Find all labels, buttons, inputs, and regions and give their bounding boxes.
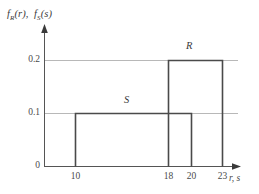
x-axis-title-second: s [236, 173, 240, 183]
probability-density-chart: fR(r), fS(s) 0.2 0.1 0 10 18 20 23 r, s … [0, 0, 259, 194]
x-tick-label-10: 10 [63, 171, 88, 181]
curve-label-S: S [124, 94, 129, 105]
curve-label-R: R [186, 40, 192, 51]
x-axis-title: r, s [229, 173, 240, 183]
y-tick-label-0: 0 [8, 160, 40, 170]
y-axis-title-f2-arg: (s) [41, 8, 52, 19]
y-axis-title: fR(r), fS(s) [7, 8, 52, 22]
x-tick-label-18: 18 [156, 171, 181, 181]
x-tick-label-20: 20 [179, 171, 204, 181]
y-tick-label-0.2: 0.2 [8, 54, 40, 64]
x-axis-title-first: r, [229, 173, 234, 183]
y-tick-label-0.1: 0.1 [8, 107, 40, 117]
density-rect-S [76, 114, 192, 167]
y-axis-title-f1-arg: (r), [14, 8, 28, 19]
y-axis-arrow [41, 24, 48, 33]
x-axis-arrow [232, 163, 241, 170]
